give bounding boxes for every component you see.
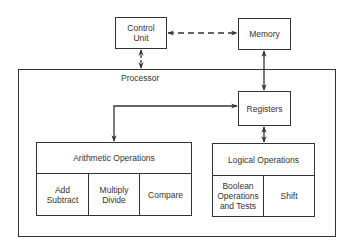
registers-arithmetic-arrow — [114, 106, 237, 141]
connectors — [0, 0, 347, 248]
